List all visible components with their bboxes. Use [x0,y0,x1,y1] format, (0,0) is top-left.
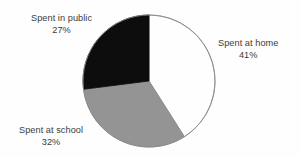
pie-label-name-spent-at-school: Spent at school [19,125,83,137]
pie-label-spent-in-public: Spent in public 27% [31,13,92,36]
pie-label-value-spent-at-home: 41% [218,50,278,62]
pie-label-name-spent-in-public: Spent in public [31,13,92,25]
pie-label-name-spent-at-home: Spent at home [218,38,278,50]
pie-label-value-spent-at-school: 32% [19,137,83,149]
pie-slice-spent-in-public [83,15,149,89]
pie-slices [83,15,215,147]
pie-chart-figure: Spent in public 27% Spent at home 41% Sp… [0,0,301,157]
pie-label-spent-at-school: Spent at school 32% [19,125,83,148]
pie-label-value-spent-in-public: 27% [31,25,92,37]
pie-label-spent-at-home: Spent at home 41% [218,38,278,61]
